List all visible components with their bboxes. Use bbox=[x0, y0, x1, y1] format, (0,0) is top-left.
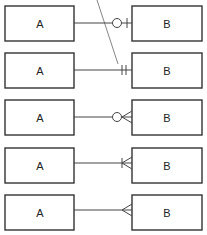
relationship-row-4: A B bbox=[5, 148, 202, 183]
relationship-row-1: A B bbox=[5, 6, 202, 41]
entity-a-label: A bbox=[36, 65, 44, 77]
entity-b-label: B bbox=[163, 160, 170, 172]
crows-foot-icon bbox=[122, 111, 132, 123]
entity-b-label: B bbox=[163, 18, 170, 30]
zero-circle-icon bbox=[113, 113, 122, 122]
pointer-line bbox=[97, 0, 118, 64]
entity-a-label: A bbox=[36, 18, 44, 30]
entity-b-label: B bbox=[163, 65, 170, 77]
entity-a-label: A bbox=[36, 160, 44, 172]
zero-circle-icon bbox=[113, 19, 122, 28]
relationship-row-5: A B bbox=[5, 195, 202, 230]
relationship-row-3: A B bbox=[5, 100, 202, 135]
relationship-row-2: A B bbox=[5, 53, 202, 88]
entity-a-label: A bbox=[36, 207, 44, 219]
entity-b-label: B bbox=[163, 112, 170, 124]
erd-diagram: A B A B A B A B bbox=[0, 0, 207, 235]
entity-a-label: A bbox=[36, 112, 44, 124]
entity-b-label: B bbox=[163, 207, 170, 219]
